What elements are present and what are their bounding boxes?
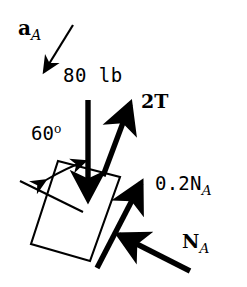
normal-symbol: N xyxy=(182,230,199,252)
label-angle-60-degrees: 60o xyxy=(31,124,61,143)
acceleration-symbol: a xyxy=(18,16,31,40)
angle-value: 60 xyxy=(31,122,54,144)
label-weight-80lb: 80 lb xyxy=(63,66,123,85)
friction-prefix: 0.2N xyxy=(155,172,202,194)
label-normal-NA: NA xyxy=(182,232,209,251)
degree-icon: o xyxy=(54,122,61,136)
free-body-diagram: aA 80 lb 2T 60o 0.2NA NA xyxy=(0,0,247,287)
label-friction-0-2NA: 0.2NA xyxy=(155,174,212,193)
label-tension-2T: 2T xyxy=(141,92,168,111)
friction-subscript: A xyxy=(202,182,212,198)
label-acceleration-a-A: aA xyxy=(18,18,41,38)
normal-subscript: A xyxy=(200,240,210,256)
vector-tension-2T xyxy=(103,104,130,176)
vector-normal-NA xyxy=(119,235,190,271)
acceleration-subscript: A xyxy=(31,27,41,43)
